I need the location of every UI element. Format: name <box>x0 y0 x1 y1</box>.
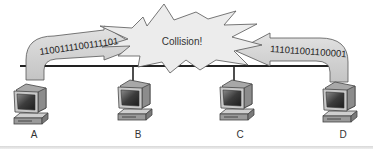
collision-diagram: Collision! 1100111100111101 111011001100… <box>0 0 373 153</box>
computer-b-icon <box>118 80 152 120</box>
node-label-a: A <box>24 129 44 140</box>
computer-a-icon <box>14 84 48 124</box>
node-label-d: D <box>333 129 353 140</box>
collision-label: Collision! <box>162 36 203 47</box>
computer-c-icon <box>220 80 254 120</box>
node-label-b: B <box>128 129 148 140</box>
computer-d-icon <box>323 82 357 122</box>
divider <box>0 146 373 149</box>
node-label-c: C <box>230 129 250 140</box>
